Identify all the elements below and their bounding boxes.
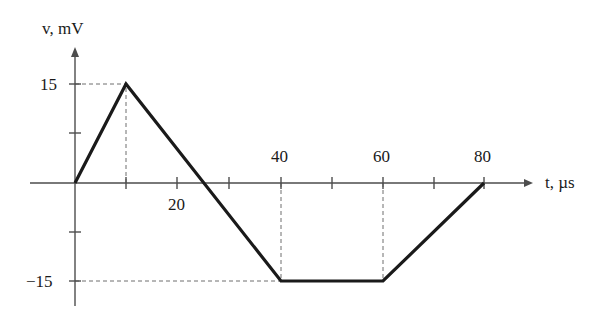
x-tick-label-20: 20 — [168, 196, 185, 213]
axes — [30, 53, 528, 306]
waveform-plot — [0, 0, 605, 329]
x-axis-label: t, µs — [545, 174, 575, 191]
y-axis-arrowhead — [71, 47, 79, 57]
x-axis-unit: µs — [558, 173, 574, 192]
y-axis-unit: mV — [58, 19, 84, 38]
waveform-figure: v, mV t, µs 15 −15 20 40 60 80 — [0, 0, 605, 329]
x-tick-label-80: 80 — [474, 148, 491, 165]
x-tick-label-60: 60 — [373, 148, 390, 165]
y-axis-comma: , — [49, 19, 53, 38]
x-tick-label-40: 40 — [271, 148, 288, 165]
y-axis-label: v, mV — [42, 20, 83, 37]
x-axis-arrowhead — [524, 179, 533, 187]
y-tick-label-15: 15 — [40, 76, 57, 93]
x-axis-comma: , — [550, 173, 554, 192]
y-tick-label-neg15: −15 — [26, 273, 53, 290]
